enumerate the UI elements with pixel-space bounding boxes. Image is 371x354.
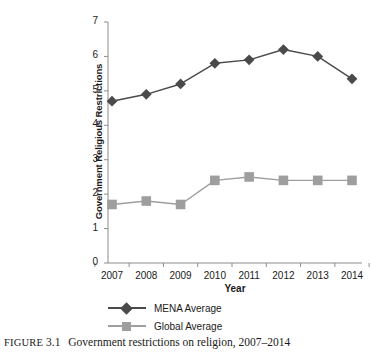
caption-prefix: FIGURE	[4, 337, 43, 348]
line-chart-svg	[0, 0, 371, 300]
chart-legend: MENA Average Global Average	[0, 300, 371, 334]
legend-swatch-mena	[108, 302, 146, 314]
legend-item-mena-average[interactable]: MENA Average	[108, 301, 222, 315]
y-tick-label-5: 5	[82, 84, 98, 95]
caption-text: Government restrictions on religion, 200…	[68, 336, 290, 348]
figure-container: Government Religious Restrictions Year 0…	[0, 0, 371, 354]
caption-number: 3.1	[46, 336, 60, 348]
y-tick-label-0: 0	[82, 256, 98, 267]
legend-label-mena: MENA Average	[154, 303, 222, 314]
y-tick-label-4: 4	[82, 118, 98, 129]
legend-swatch-global	[108, 320, 146, 332]
y-tick-label-3: 3	[82, 153, 98, 164]
x-tick-label-2014: 2014	[332, 270, 371, 281]
diamond-marker-icon	[120, 302, 133, 315]
legend-item-global-average[interactable]: Global Average	[108, 319, 222, 333]
y-tick-label-7: 7	[82, 15, 98, 26]
y-tick-label-6: 6	[82, 49, 98, 60]
chart-plot-area: Government Religious Restrictions Year 0…	[0, 0, 371, 300]
y-tick-label-1: 1	[82, 222, 98, 233]
square-marker-icon	[122, 322, 131, 331]
legend-label-global: Global Average	[154, 321, 222, 332]
y-tick-label-2: 2	[82, 187, 98, 198]
figure-caption: FIGURE 3.1 Government restrictions on re…	[4, 336, 367, 348]
x-axis-title: Year	[110, 283, 360, 294]
